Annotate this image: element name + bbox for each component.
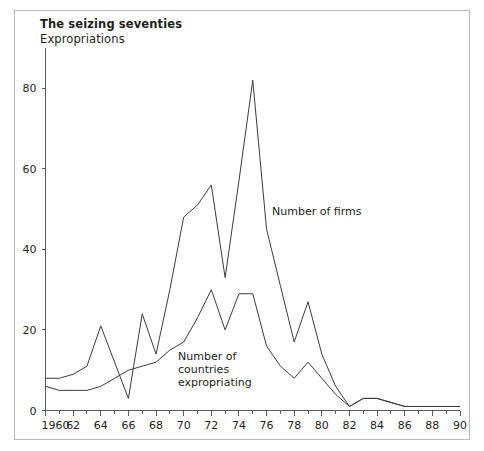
x-tick-label: 70 bbox=[177, 419, 191, 432]
y-axis-group: 020406080 bbox=[23, 48, 46, 418]
x-tick-label: 88 bbox=[425, 419, 439, 432]
x-tick-label: 80 bbox=[315, 419, 329, 432]
x-tick-label: 84 bbox=[370, 419, 384, 432]
y-tick-label: 40 bbox=[23, 243, 37, 256]
x-tick-label: 68 bbox=[149, 419, 163, 432]
y-tick-label: 80 bbox=[23, 82, 37, 95]
y-tick-label: 0 bbox=[30, 405, 37, 418]
x-tick-label: 82 bbox=[342, 419, 356, 432]
x-tick-label: 78 bbox=[287, 419, 301, 432]
x-tick-label: 72 bbox=[204, 419, 218, 432]
x-tick-label: 76 bbox=[260, 419, 274, 432]
x-tick-label: 62 bbox=[66, 419, 80, 432]
series-group bbox=[46, 80, 461, 406]
x-tick-label: 74 bbox=[232, 419, 246, 432]
x-tick-label: 66 bbox=[121, 419, 135, 432]
y-tick-label: 20 bbox=[23, 324, 37, 337]
y-tick-label: 60 bbox=[23, 163, 37, 176]
annotation-firms-label: Number of firms bbox=[272, 205, 362, 218]
series-number-of-firms bbox=[46, 80, 461, 406]
annotation-countries: Number of countries expropriating bbox=[178, 350, 252, 389]
annotation-countries-line1: Number of bbox=[178, 350, 237, 363]
annotation-firms: Number of firms bbox=[272, 205, 362, 218]
y-tick-group: 020406080 bbox=[23, 82, 46, 417]
x-axis-group: 1960626466687072747678808284868890 bbox=[42, 411, 468, 432]
annotation-countries-line2: countries bbox=[178, 363, 229, 376]
line-chart-plot: 020406080 196062646668707274767880828486… bbox=[0, 0, 484, 451]
series-number-of-countries-expropriating bbox=[46, 290, 461, 407]
annotation-countries-line3: expropriating bbox=[178, 376, 252, 389]
x-tick-label: 86 bbox=[398, 419, 412, 432]
chart-figure: The seizing seventies Expropriations 020… bbox=[0, 0, 484, 451]
x-tick-label: 64 bbox=[94, 419, 108, 432]
x-tick-group: 1960626466687072747678808284868890 bbox=[42, 411, 468, 432]
x-tick-label: 90 bbox=[453, 419, 467, 432]
